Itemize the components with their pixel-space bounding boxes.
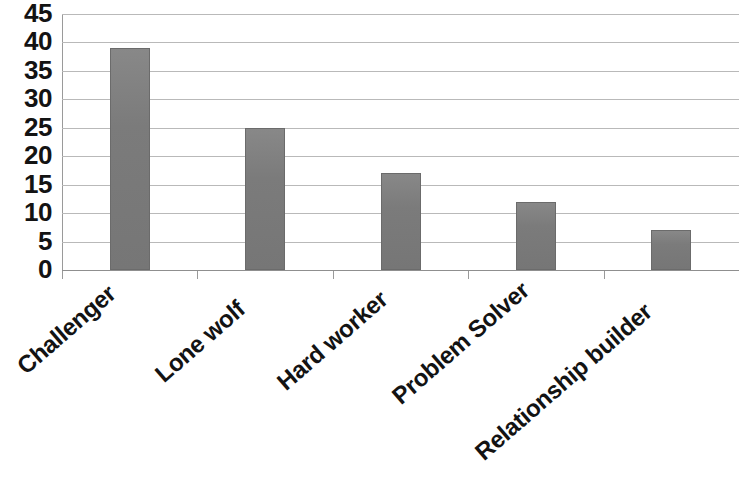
- bars: [62, 14, 739, 270]
- plot-area: [62, 14, 739, 270]
- y-axis-tick-label: 45: [4, 0, 52, 26]
- y-axis-tick-label: 10: [4, 199, 52, 225]
- x-axis-tick: [333, 271, 334, 279]
- x-axis-tick: [62, 271, 63, 279]
- x-axis-category-label: Problem Solver: [387, 276, 535, 410]
- bar: [381, 173, 421, 270]
- bar: [110, 48, 150, 270]
- axis-baseline: [62, 270, 739, 271]
- y-axis-tick-label: 0: [4, 256, 52, 282]
- y-axis-tick-label: 5: [4, 228, 52, 254]
- y-axis-tick-label: 40: [4, 28, 52, 54]
- bar: [516, 202, 556, 270]
- y-axis-tick-label: 35: [4, 57, 52, 83]
- y-axis-tick-labels: 454035302520151050: [0, 0, 52, 280]
- y-axis-tick-label: 20: [4, 142, 52, 168]
- x-axis-tick: [197, 271, 198, 279]
- bar: [245, 128, 285, 270]
- y-axis-tick-label: 25: [4, 114, 52, 140]
- bar-chart: 454035302520151050 ChallengerLone wolfHa…: [0, 0, 739, 483]
- bar: [651, 230, 691, 270]
- y-axis-tick-label: 30: [4, 85, 52, 111]
- x-axis-category-label: Hard worker: [272, 285, 394, 396]
- x-axis-category-label: Challenger: [12, 279, 122, 380]
- y-axis-tick-label: 15: [4, 171, 52, 197]
- x-axis-tick: [604, 271, 605, 279]
- x-axis-category-label: Lone wolf: [150, 295, 251, 388]
- x-axis-tick: [468, 271, 469, 279]
